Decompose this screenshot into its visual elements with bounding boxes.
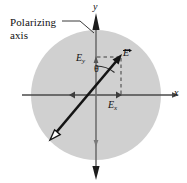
e-field-vector-label-wrap: E (123, 48, 129, 58)
x-axis-label: x (174, 88, 178, 98)
angle-theta-label: θ (94, 64, 99, 74)
vector-arrow-overbar-icon (123, 48, 132, 53)
ey-component-label-sub: y (82, 57, 85, 65)
y-axis-top-arrowhead-icon (92, 13, 99, 30)
ex-component-label: Ex (108, 100, 117, 112)
y-axis-label: y (93, 2, 97, 12)
ey-component-label: Ey (76, 53, 85, 65)
ex-component-label-sub: x (114, 104, 117, 112)
polarizing-axis-label: Polarizing axis (10, 17, 56, 41)
y-axis-bottom-arrowhead-icon (92, 166, 99, 180)
polarization-diagram: Polarizing axis y x Ey Ex E θ (0, 0, 187, 183)
polarizing-axis-label-line2: axis (10, 30, 56, 41)
polarizing-axis-label-line1: Polarizing (10, 16, 56, 28)
e-field-vector-label: E (123, 48, 129, 58)
